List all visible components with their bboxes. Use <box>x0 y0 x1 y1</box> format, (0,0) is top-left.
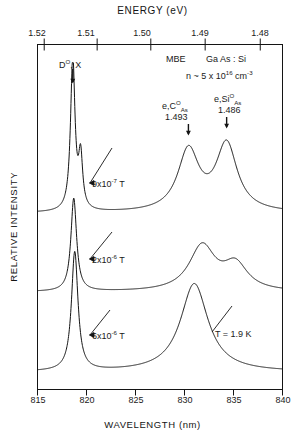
photoluminescence-figure: ENERGY (eV) WAVELENGTH (nm) RELATIVE INT… <box>0 0 305 445</box>
spectrum-trace <box>38 63 283 212</box>
leader-arrowhead <box>89 333 94 338</box>
spectrum-plot <box>0 0 305 445</box>
peak-arrow <box>186 124 191 135</box>
leader-line <box>90 148 112 183</box>
leader-line <box>90 310 110 335</box>
spectrum-traces <box>38 63 283 370</box>
leader-line <box>90 232 112 259</box>
spectrum-trace <box>38 198 283 290</box>
peak-arrows <box>70 69 229 135</box>
label-leader-lines <box>89 148 232 337</box>
leader-line <box>212 306 232 332</box>
leader-arrowhead <box>89 257 94 262</box>
leader-arrowhead <box>89 181 94 186</box>
peak-arrow <box>224 117 229 128</box>
